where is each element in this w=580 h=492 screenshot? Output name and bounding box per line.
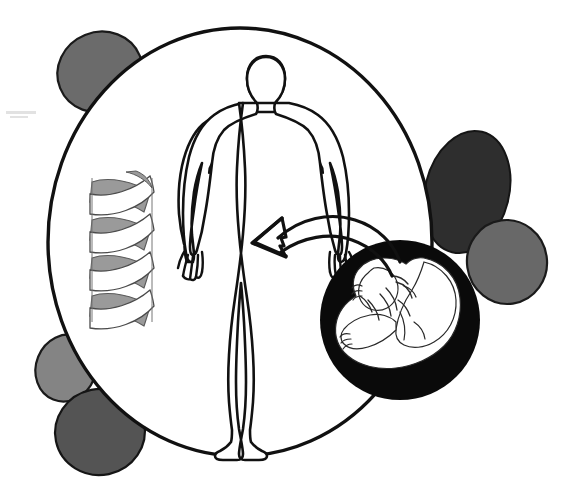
diagram-canvas: [0, 0, 580, 492]
figure-root: Genetics and prenatal development concep…: [0, 0, 580, 492]
dna-helix-icon: [90, 171, 154, 329]
fetus-circle: [320, 240, 480, 400]
scan-artifact: [6, 111, 36, 118]
